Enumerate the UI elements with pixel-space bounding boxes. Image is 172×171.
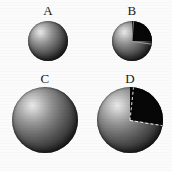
sphere-c — [12, 87, 78, 153]
panel-b-label: B — [102, 4, 162, 17]
panel-c-label: C — [6, 72, 84, 85]
panel-d: D — [91, 68, 169, 166]
sphere-b-cutaway — [112, 21, 152, 61]
sphere-figure: A B C D — [0, 0, 172, 171]
panel-a: A — [18, 0, 78, 70]
sphere-c-body — [12, 87, 78, 153]
sphere-b — [112, 21, 152, 61]
panel-d-label: D — [91, 72, 169, 85]
panel-a-label: A — [18, 4, 78, 17]
sphere-d-cutaway — [97, 87, 163, 153]
sphere-a-body — [28, 21, 68, 61]
panel-b: B — [102, 0, 162, 70]
sphere-a — [28, 21, 68, 61]
sphere-d — [97, 87, 163, 153]
sphere-b-cut-edge-lower — [132, 41, 152, 45]
panel-c: C — [6, 68, 84, 166]
